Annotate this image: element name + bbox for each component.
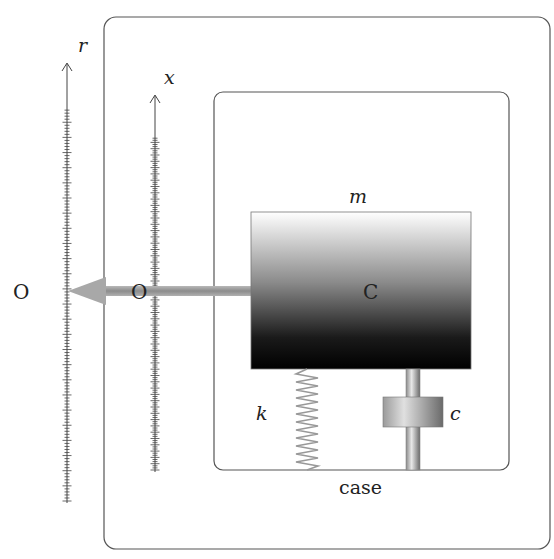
r-axis (62, 63, 72, 503)
origin-x-label: O (131, 280, 147, 304)
accelerometer-diagram: r x m C O O k c case (0, 0, 554, 559)
damper-label: c (450, 402, 461, 424)
x-axis-label: x (164, 66, 175, 88)
case-label: case (339, 476, 382, 498)
x-axis (150, 95, 160, 472)
r-axis-label: r (78, 34, 89, 56)
center-label: C (363, 280, 378, 304)
spring-icon (296, 369, 318, 470)
mass-label: m (349, 185, 367, 207)
mass-block (251, 212, 471, 369)
damper-icon (383, 369, 443, 470)
origin-r-label: O (13, 280, 29, 304)
spring-label: k (256, 402, 268, 424)
